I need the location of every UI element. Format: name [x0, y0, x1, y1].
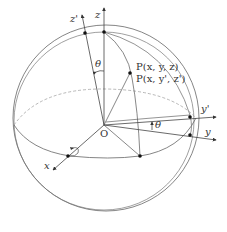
label-y: y: [205, 127, 211, 137]
label-y-prime: y': [201, 104, 209, 114]
equator-back: [14, 89, 196, 125]
point-y: [188, 133, 192, 137]
label-theta-right: θ: [155, 120, 161, 130]
sphere-rotation-diagram: [0, 0, 227, 232]
sphere-outline: [13, 25, 199, 211]
point-z-top: [102, 30, 106, 34]
equator-rotated: [106, 115, 190, 122]
op-line: [104, 73, 130, 125]
x-axis: [53, 125, 104, 170]
point-x-equator: [66, 154, 70, 158]
label-z-prime: z': [70, 14, 78, 24]
point-equator-bottom: [138, 154, 142, 158]
label-theta-top: θ: [95, 59, 101, 69]
o-to-equator-line: [104, 125, 140, 156]
meridian-arc: [104, 32, 140, 156]
label-origin: O: [100, 129, 108, 139]
point-z-prime-top: [83, 31, 87, 35]
point-p: [128, 71, 132, 75]
label-point-original: P(x, y, z): [136, 62, 178, 72]
label-z: z: [95, 10, 100, 20]
label-point-rotated: P(x, y', z'): [136, 74, 185, 84]
theta-arc-top: [96, 71, 104, 72]
label-x: x: [44, 161, 50, 171]
point-y-prime: [188, 115, 192, 119]
